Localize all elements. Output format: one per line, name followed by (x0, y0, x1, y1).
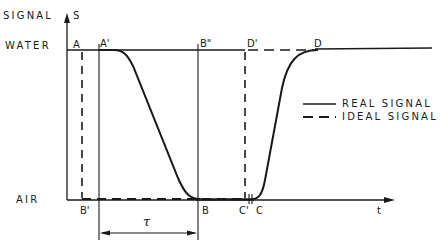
reference-lines (99, 44, 252, 240)
real-signal-curve (67, 48, 432, 200)
legend-swatches (303, 104, 336, 117)
arrow-right-icon (187, 231, 197, 236)
x-axis-arrow-icon (384, 197, 395, 203)
air-level-label: AIR (16, 194, 39, 205)
water-level-label: WATER (5, 40, 51, 51)
y-axis (64, 13, 70, 200)
x-axis-symbol: t (377, 205, 381, 216)
point-label-d: D (314, 38, 322, 49)
y-axis-label: SIGNAL (3, 10, 53, 21)
point-label-a: A (73, 39, 80, 50)
point-label-b: B (202, 205, 209, 216)
ideal-signal-curve (82, 50, 318, 199)
y-axis-arrow-icon (64, 13, 70, 23)
arrow-left-icon (100, 231, 110, 236)
legend-real-signal-label: REAL SIGNAL (342, 98, 432, 109)
point-label-b-double-prime: B" (200, 38, 211, 49)
tau-label: τ (143, 214, 150, 229)
point-label-c: C (256, 205, 263, 216)
legend-ideal-signal-label: IDEAL SIGNAL (342, 111, 438, 122)
point-label-b-prime: B' (80, 205, 90, 216)
y-axis-symbol: S (73, 10, 79, 21)
tau-interval-arrow (100, 231, 197, 236)
point-label-a-prime: A' (100, 38, 110, 49)
point-label-d-prime: D' (247, 38, 257, 49)
point-label-c-prime: C' (239, 205, 249, 216)
